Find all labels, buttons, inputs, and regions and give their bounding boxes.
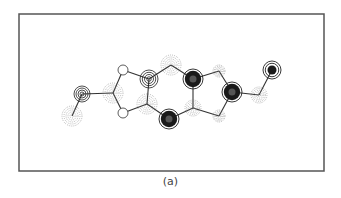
figure-caption: (a)	[0, 175, 341, 188]
atom-contour-open	[118, 65, 128, 75]
atom-contour-filled-rings	[263, 61, 281, 79]
bond-line	[149, 65, 171, 79]
bond-line	[82, 93, 113, 94]
atom-contour-filled	[159, 109, 179, 129]
molecular-contour-figure	[0, 0, 341, 198]
atom-contour-filled	[222, 82, 242, 102]
atom-contour-filled	[183, 69, 203, 89]
atom-contours	[62, 55, 281, 129]
atom-contour-open	[118, 108, 128, 118]
plot-frame	[19, 14, 324, 171]
